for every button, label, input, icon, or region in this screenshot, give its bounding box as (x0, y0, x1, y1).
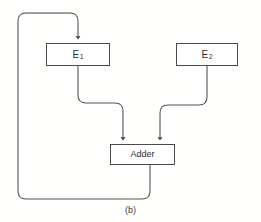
edge-adder-feedback-to-e1 (18, 13, 150, 199)
node-e1-label: E1 (73, 50, 84, 60)
diagram-connector-layer (0, 0, 261, 222)
node-e2-label: E2 (202, 50, 213, 60)
edge-e2-to-adder (160, 66, 207, 138)
node-e1: E1 (46, 43, 110, 66)
block-diagram-figure: E1 E2 Adder (b) (0, 0, 261, 222)
node-adder: Adder (110, 144, 175, 165)
node-e2: E2 (176, 43, 238, 66)
edge-e1-to-adder (78, 66, 123, 138)
figure-caption: (b) (0, 205, 261, 215)
node-adder-label: Adder (130, 150, 154, 159)
